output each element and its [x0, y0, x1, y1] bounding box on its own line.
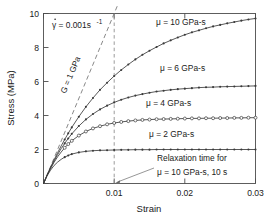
strain-rate-exponent: -1	[97, 18, 103, 25]
data-point-marker	[71, 133, 73, 135]
data-point-marker	[240, 116, 243, 119]
data-point-marker	[92, 150, 94, 152]
x-tick-label-002: 0.02	[176, 188, 193, 198]
data-point-marker	[163, 90, 165, 92]
data-point-marker	[77, 134, 80, 137]
data-point-marker	[78, 151, 80, 153]
data-point-marker	[67, 143, 70, 146]
data-point-marker	[64, 156, 66, 158]
data-point-marker	[205, 86, 207, 88]
y-tick-label-6: 6	[34, 77, 39, 87]
data-point-marker	[198, 148, 200, 150]
data-point-marker	[64, 142, 66, 144]
x-tick-label-001: 0.01	[106, 188, 123, 198]
data-point-marker	[184, 88, 186, 90]
data-point-marker	[99, 89, 101, 91]
data-point-marker	[106, 123, 109, 126]
curve-label-mu10: μ = 10 GPa-s	[156, 17, 206, 27]
data-point-marker	[106, 149, 108, 151]
data-point-marker	[141, 54, 143, 56]
data-point-marker	[162, 118, 165, 121]
x-axis-title: Strain	[137, 203, 162, 214]
data-point-marker	[120, 120, 123, 123]
data-point-marker	[197, 117, 200, 120]
data-point-marker	[92, 97, 94, 99]
data-point-marker	[205, 27, 207, 29]
data-point-marker	[113, 121, 116, 124]
data-point-marker	[156, 90, 158, 92]
data-point-marker	[190, 117, 193, 120]
y-axis-title: Stress (MPa)	[5, 70, 16, 125]
data-point-marker	[113, 149, 115, 151]
data-point-marker	[184, 34, 186, 36]
data-point-marker	[127, 96, 129, 98]
strain-rate-value: = 0.001s	[59, 20, 91, 30]
data-point-marker	[148, 50, 150, 52]
data-point-marker	[191, 148, 193, 150]
data-point-marker	[247, 18, 249, 20]
data-point-marker	[191, 87, 193, 89]
data-point-marker	[183, 117, 186, 120]
data-point-marker	[67, 137, 69, 139]
data-point-marker	[212, 25, 214, 27]
data-point-marker	[99, 108, 101, 110]
data-point-marker	[120, 149, 122, 151]
data-point-marker	[127, 120, 130, 123]
data-point-marker	[226, 148, 228, 150]
data-point-marker	[85, 106, 87, 108]
data-point-marker	[85, 150, 87, 152]
data-point-marker	[212, 117, 215, 120]
data-point-marker	[106, 105, 108, 107]
y-tick-label-8: 8	[34, 43, 39, 53]
data-point-marker	[148, 149, 150, 151]
data-point-marker	[254, 116, 257, 119]
data-point-marker	[226, 117, 229, 120]
data-point-marker	[177, 88, 179, 90]
data-point-marker	[134, 95, 136, 97]
relaxation-annotation-line2: μ = 10 GPa-s, 10 s	[157, 167, 227, 177]
data-point-marker	[191, 31, 193, 33]
data-point-marker	[247, 85, 249, 87]
data-point-marker	[141, 149, 143, 151]
data-point-marker	[233, 116, 236, 119]
data-point-marker	[120, 99, 122, 101]
data-point-marker	[155, 118, 158, 121]
data-point-marker	[113, 101, 115, 103]
data-point-marker	[212, 148, 214, 150]
data-point-marker	[177, 148, 179, 150]
data-point-marker	[184, 148, 186, 150]
data-point-marker	[226, 22, 228, 24]
data-point-marker	[134, 149, 136, 151]
data-point-marker	[113, 75, 115, 77]
relaxation-annotation-line1: Relaxation time for	[157, 153, 227, 163]
data-point-marker	[254, 17, 256, 19]
data-point-marker	[163, 148, 165, 150]
figure-background	[0, 0, 270, 224]
chart-canvas: 10 8 6 4 2 0 0.01 0.02 0.03 Strain Stres…	[0, 0, 270, 224]
data-point-marker	[176, 117, 179, 120]
data-point-marker	[170, 89, 172, 91]
data-point-marker	[169, 117, 172, 120]
data-point-marker	[64, 138, 66, 140]
data-point-marker	[156, 148, 158, 150]
x-tick-label-003: 0.03	[247, 188, 264, 198]
data-point-marker	[205, 148, 207, 150]
data-point-marker	[226, 86, 228, 88]
data-point-marker	[85, 118, 87, 120]
data-point-marker	[219, 117, 222, 120]
data-point-marker	[99, 125, 102, 128]
curve-label-mu6: μ = 6 GPa-s	[160, 63, 205, 73]
data-point-marker	[67, 132, 69, 134]
data-point-marker	[148, 118, 151, 121]
data-point-marker	[233, 148, 235, 150]
data-point-marker	[127, 63, 129, 65]
curve-label-mu4: μ = 4 GPa-s	[146, 98, 191, 108]
data-point-marker	[219, 86, 221, 88]
data-point-marker	[84, 130, 87, 133]
y-tick-label-0: 0	[34, 179, 39, 189]
data-point-marker	[198, 87, 200, 89]
data-point-marker	[78, 116, 80, 118]
data-point-marker	[247, 148, 249, 150]
y-tick-label-4: 4	[34, 111, 39, 121]
data-point-marker	[156, 46, 158, 48]
